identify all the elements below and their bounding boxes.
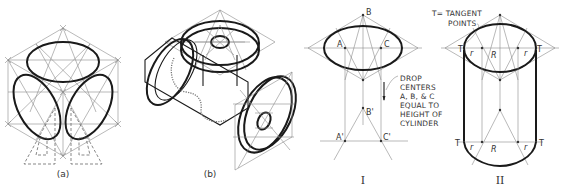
right-ellipse (56, 67, 122, 147)
panel-II-label: II (496, 174, 505, 187)
panel-a-label: (a) (57, 169, 70, 179)
svg-text:HEIGHT OF: HEIGHT OF (400, 110, 442, 119)
panel-II-cylinder: T= TANGENT POINTS T T T T r r R (431, 9, 559, 187)
drop-centers-note: DROP CENTERS A, B, & C EQUAL TO HEIGHT O… (400, 74, 442, 128)
panel-I-label: I (361, 174, 365, 187)
point-A-prime: A' (336, 133, 344, 142)
panel-b-pipe-tee: (b) (137, 10, 306, 179)
top-ellipse (27, 42, 99, 82)
isometric-ellipse-figure: (a) (0, 0, 561, 189)
point-B: B (366, 8, 372, 17)
svg-text:CENTERS: CENTERS (400, 83, 436, 92)
svg-text:r: r (524, 143, 528, 152)
svg-text:POINTS: POINTS (448, 19, 476, 28)
tangent-mark: T (457, 45, 463, 54)
svg-text:EQUAL TO: EQUAL TO (400, 101, 439, 110)
svg-text:r: r (470, 143, 474, 152)
svg-text:r: r (524, 49, 528, 58)
large-radius-mark: R (491, 51, 497, 60)
svg-text:R: R (491, 145, 497, 154)
radius-mark: r (470, 49, 474, 58)
svg-text:T: T (538, 139, 544, 148)
svg-text:T= TANGENT: T= TANGENT (431, 9, 482, 18)
panel-b-label: (b) (204, 169, 217, 179)
tangent-points-note: T= TANGENT POINTS (431, 9, 482, 28)
svg-text:T: T (454, 139, 460, 148)
point-C: C (384, 40, 390, 49)
point-A: A (337, 40, 343, 49)
svg-text:A, B, & C: A, B, & C (400, 92, 435, 101)
left-ellipse (4, 67, 70, 147)
panel-a-cube-ellipses: (a) (4, 25, 122, 179)
svg-text:DROP: DROP (400, 74, 422, 83)
panel-I-construction: B A C B' A' C' DROP CENTERS A, B, & C EQ… (304, 8, 442, 187)
svg-text:T: T (536, 45, 542, 54)
point-C-prime: C' (383, 133, 391, 142)
point-B-prime: B' (366, 108, 374, 117)
svg-text:CYLINDER: CYLINDER (400, 119, 438, 128)
